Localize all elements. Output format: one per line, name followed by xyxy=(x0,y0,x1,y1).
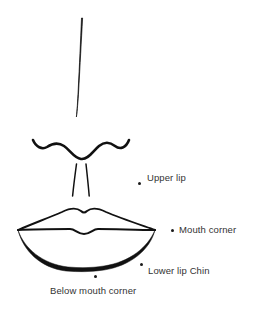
philtrum-right-line xyxy=(86,164,89,196)
label-mouth-corner: Mouth corner xyxy=(179,224,236,235)
marker-dot-below-mouth-corner xyxy=(94,275,97,278)
philtrum-left-line xyxy=(73,164,77,196)
label-below-mouth-corner: Below mouth corner xyxy=(50,285,136,296)
upper-lip-outline xyxy=(18,208,155,230)
lower-lip-outline xyxy=(18,230,155,272)
marker-dot-upper-lip xyxy=(138,182,141,185)
marker-dot-lower-lip-chin xyxy=(140,263,143,266)
marker-dot-mouth-corner xyxy=(171,229,174,232)
nose-bridge-line xyxy=(76,18,82,117)
face-line-drawing xyxy=(0,0,263,318)
nose-base-curve xyxy=(33,140,129,159)
mouth-line xyxy=(18,229,155,234)
label-lower-lip-chin: Lower lip Chin xyxy=(148,265,210,276)
facial-feature-diagram: Upper lip Mouth corner Lower lip Chin Be… xyxy=(0,0,263,318)
label-upper-lip: Upper lip xyxy=(147,172,186,183)
